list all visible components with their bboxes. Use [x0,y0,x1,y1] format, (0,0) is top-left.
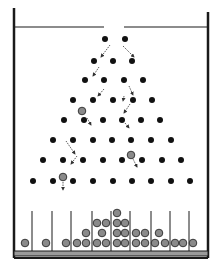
peg [100,117,106,123]
ball [102,219,110,227]
peg [119,117,125,123]
peg [81,117,87,123]
peg [91,58,97,64]
ball [93,219,101,227]
peg [102,36,108,42]
arrow [129,86,133,95]
ball [132,239,140,247]
peg [90,97,96,103]
ball [113,239,121,247]
galton-board [0,0,219,271]
peg [148,137,154,143]
peg [168,178,174,184]
ball [42,239,50,247]
path-arrows [63,45,137,190]
arrow [123,96,124,101]
peg [187,178,193,184]
ball [113,209,121,217]
ball [98,229,106,237]
arrow [66,141,75,154]
peg [130,97,136,103]
peg [168,137,174,143]
ball [132,229,140,237]
peg-array [30,36,193,184]
collection-bins [14,209,208,258]
peg [60,157,66,163]
ball [121,229,129,237]
ball [155,229,163,237]
ball [59,173,67,181]
peg [140,77,146,83]
arrow [98,89,104,96]
arrow [101,45,110,57]
ball [102,239,110,247]
peg [159,157,165,163]
peg [70,178,76,184]
ball [78,107,86,115]
ball [127,151,135,159]
peg [149,97,155,103]
ball [113,229,121,237]
arrow [125,123,129,128]
arrow [124,104,130,113]
peg [70,97,76,103]
peg [129,58,135,64]
peg [110,58,116,64]
arrow [123,46,134,57]
ball [62,239,70,247]
arrow [87,118,91,125]
peg [40,157,46,163]
ball [171,239,179,247]
peg [50,137,56,143]
ball [179,239,187,247]
peg [90,137,96,143]
peg [119,157,125,163]
peg [110,178,116,184]
ball [73,239,81,247]
ball [121,219,129,227]
peg [128,137,134,143]
ball [189,239,197,247]
arrow [71,156,77,164]
ball [93,239,101,247]
peg [121,77,127,83]
bin-floor [14,251,208,256]
peg [138,117,144,123]
peg [139,157,145,163]
peg [110,97,116,103]
peg [157,117,163,123]
peg [80,157,86,163]
arrow [93,67,99,76]
peg [82,77,88,83]
peg [148,178,154,184]
ball [113,219,121,227]
ball [151,239,159,247]
ball [82,229,90,237]
peg [70,137,76,143]
peg [50,178,56,184]
peg [61,117,67,123]
peg [100,157,106,163]
ball [141,239,149,247]
ball [161,239,169,247]
peg [129,178,135,184]
peg [90,178,96,184]
peg [122,36,128,42]
peg [109,137,115,143]
ball [141,229,149,237]
ball [121,239,129,247]
peg [30,178,36,184]
peg [178,157,184,163]
peg [101,77,107,83]
ball [21,239,29,247]
ball [82,239,90,247]
